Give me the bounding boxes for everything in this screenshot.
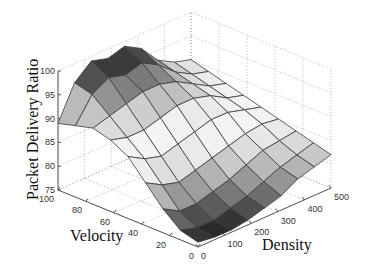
z-tick-label: 100: [40, 66, 55, 76]
z-tick-label: 80: [45, 161, 55, 171]
velocity-tick-label: 0: [189, 251, 194, 261]
velocity-tick-label: 100: [39, 194, 54, 204]
surface-mesh: [58, 46, 331, 242]
surface-plot: 7580859095100020406080100010020030040050…: [0, 0, 369, 268]
velocity-tick-label: 20: [156, 240, 166, 250]
velocity-tick-label: 80: [72, 205, 82, 215]
velocity-axis-label: Velocity: [70, 227, 123, 245]
velocity-tick-label: 40: [128, 228, 138, 238]
density-tick-label: 100: [228, 239, 243, 249]
density-tick-label: 400: [307, 204, 322, 214]
density-tick-label: 300: [281, 216, 296, 226]
z-axis-label: Packet Delivery Ratio: [24, 59, 42, 200]
z-tick-label: 90: [45, 114, 55, 124]
z-tick-label: 95: [45, 90, 55, 100]
density-tick-label: 0: [201, 251, 206, 261]
z-tick-label: 85: [45, 137, 55, 147]
density-tick-label: 500: [334, 192, 349, 202]
density-axis-label: Density: [262, 236, 312, 254]
velocity-tick-label: 60: [100, 217, 110, 227]
